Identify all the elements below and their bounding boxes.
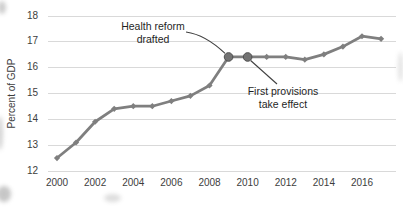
x-tick-label: 2000	[37, 177, 77, 188]
x-tick-label: 2010	[228, 177, 268, 188]
x-axis-tick-labels: 200020022004200620082010201220142016	[0, 177, 402, 191]
highlight-dot-2009	[224, 53, 233, 62]
x-tick-label: 2016	[342, 177, 382, 188]
annotation-first-provisions: First provisions take effect	[228, 85, 338, 110]
y-tick-label: 14	[14, 113, 38, 125]
annotation-health-reform-drafted: Health reform drafted	[103, 20, 203, 45]
x-tick-label: 2014	[304, 177, 344, 188]
x-tick-label: 2006	[151, 177, 191, 188]
y-tick-label: 12	[14, 165, 38, 177]
y-tick-label: 18	[14, 10, 38, 22]
annotation-text-line: Health reform	[103, 20, 203, 33]
y-tick-label: 13	[14, 139, 38, 151]
annotation-leader-line	[251, 60, 277, 84]
data-point-marker	[149, 103, 155, 109]
data-point-marker	[378, 36, 384, 42]
data-point-marker	[302, 56, 308, 62]
highlight-dot-2010	[243, 53, 252, 62]
annotation-text-line: First provisions	[228, 85, 338, 98]
y-tick-label: 15	[14, 87, 38, 99]
data-point-marker	[168, 98, 174, 104]
x-tick-label: 2008	[190, 177, 230, 188]
data-point-marker	[130, 103, 136, 109]
data-point-marker	[264, 54, 270, 60]
y-tick-label: 16	[14, 61, 38, 73]
data-point-marker	[283, 54, 289, 60]
x-tick-label: 2004	[113, 177, 153, 188]
x-tick-label: 2012	[266, 177, 306, 188]
x-tick-label: 2002	[75, 177, 115, 188]
annotation-text-line: drafted	[103, 33, 203, 46]
annotation-text-line: take effect	[228, 98, 338, 111]
y-tick-label: 17	[14, 35, 38, 47]
